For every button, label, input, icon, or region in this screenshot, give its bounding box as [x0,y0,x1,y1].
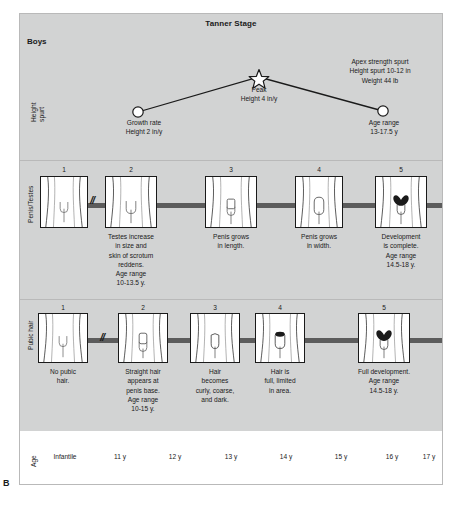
pubic-stage-figure-5 [359,314,409,362]
pubic-stage-number-5: 5 [358,304,410,311]
age-range-label: Age range 13-17.5 y [338,118,430,137]
penis-stage-figure-4 [296,177,342,227]
penis-stage-number-2: 2 [105,166,157,173]
penis-cap2-l1: Testes increase [97,232,165,241]
age-tick-0: Infantile [38,453,92,460]
pubic-cap2-l5: 10-15 y. [109,404,177,413]
penis-cap5-l4: 14.5-18 y. [367,260,435,269]
penis-stage-number-3: 3 [205,166,257,173]
separator-2 [20,299,442,300]
penis-row-break-mark: // [90,194,94,206]
pubic-stage-figure-1 [39,314,87,362]
pubic-stage-number-1: 1 [38,304,88,311]
penis-cap5-l1: Development [367,232,435,241]
penis-stage-number-1: 1 [40,166,88,173]
pubic-cap3-l3: curly, coarse, [181,386,249,395]
pubic-cap4-l1: Hair is [246,367,314,376]
penis-cap2-l4: reddens. [97,260,165,269]
pubic-stage-number-3: 3 [190,304,240,311]
penis-cap4-l1: Penis grows [285,232,353,241]
row-label-penis-testes: Penis/Testes [27,186,34,223]
pubic-stage-caption-1: No pubic hair. [29,367,97,386]
age-tick-1: 11 y [100,453,140,460]
penis-stage-figure-2 [106,177,156,227]
penis-stage-panel-2 [105,176,157,228]
separator-1 [20,160,442,161]
growth-rate-line2: Height 2 in/y [98,127,190,136]
pubic-stage-caption-5: Full development. Age range 14.5-18 y. [342,367,426,395]
pubic-stage-figure-4 [256,314,304,362]
penis-stage-panel-1 [40,176,88,228]
row-label-pubic-hair: Pubic hair [27,321,34,350]
penis-stage-panel-3 [205,176,257,228]
penis-stage-figure-1 [41,177,87,227]
penis-cap2-l3: skin of scrotum [97,251,165,260]
pubic-stage-figure-3 [191,314,239,362]
penis-stage-caption-5: Development is complete. Age range 14.5-… [367,232,435,269]
pubic-cap2-l1: Straight hair [109,367,177,376]
penis-cap2-l2: in size and [97,241,165,250]
apex-strength-note: Apex strength spurt Height spurt 10-12 i… [318,57,442,85]
pubic-stage-caption-4: Hair is full, limited in area. [246,367,314,395]
age-tick-5: 15 y [321,453,361,460]
pubic-cap1-l1: No pubic [29,367,97,376]
age-tick-7: 17 y [412,453,446,460]
figure-panel-letter: B [3,478,10,488]
penis-cap5-l2: is complete. [367,241,435,250]
row-label-age: Age [30,455,37,467]
penis-cap5-l3: Age range [367,251,435,260]
pubic-stage-number-2: 2 [118,304,168,311]
pubic-stage-panel-5 [358,313,410,363]
apex-note-line2: Height spurt 10-12 in [318,66,442,75]
growth-rate-label: Growth rate Height 2 in/y [98,118,190,137]
pubic-cap4-l2: full, limited [246,376,314,385]
pubic-cap5-l3: 14.5-18 y. [342,386,426,395]
pubic-cap2-l2: appears at [109,376,177,385]
growth-rate-line1: Growth rate [98,118,190,127]
pubic-stage-figure-2 [119,314,167,362]
age-tick-6: 16 y [372,453,412,460]
penis-stage-caption-2: Testes increase in size and skin of scro… [97,232,165,288]
penis-stage-number-4: 4 [295,166,343,173]
pubic-cap4-l3: in area. [246,386,314,395]
penis-cap2-l5: Age range [97,269,165,278]
penis-stage-caption-3: Penis grows in length. [197,232,265,251]
age-tick-2: 12 y [155,453,195,460]
pubic-cap3-l4: and dark. [181,395,249,404]
apex-note-line1: Apex strength spurt [318,57,442,66]
pubic-cap2-l3: penis base. [109,386,177,395]
pubic-stage-panel-1 [38,313,88,363]
pubic-cap5-l2: Age range [342,376,426,385]
pubic-stage-panel-2 [118,313,168,363]
pubic-stage-caption-3: Hair becomes curly, coarse, and dark. [181,367,249,404]
peak-label: Peak Height 4 in/y [213,85,305,104]
pubic-row-break-mark: // [100,331,104,343]
penis-cap4-l2: in width. [285,241,353,250]
apex-note-line3: Weight 44 lb [318,76,442,85]
pubic-stage-panel-4 [255,313,305,363]
pubic-cap5-l1: Full development. [342,367,426,376]
penis-stage-figure-5 [376,177,426,227]
age-tick-3: 13 y [211,453,251,460]
pubic-cap3-l1: Hair [181,367,249,376]
penis-stage-panel-4 [295,176,343,228]
peak-line2: Height 4 in/y [213,94,305,103]
peak-line1: Peak [213,85,305,94]
age-range-line2: 13-17.5 y [338,127,430,136]
pubic-stage-panel-3 [190,313,240,363]
pubic-cap1-l2: hair. [29,376,97,385]
age-range-line1: Age range [338,118,430,127]
penis-cap2-l6: 10-13.5 y. [97,278,165,287]
sex-label: Boys [27,37,47,46]
pubic-stage-number-4: 4 [255,304,305,311]
penis-cap3-l1: Penis grows [197,232,265,241]
penis-cap3-l2: in length. [197,241,265,250]
penis-stage-figure-3 [206,177,256,227]
penis-stage-caption-4: Penis grows in width. [285,232,353,251]
pubic-stage-caption-2: Straight hair appears at penis base. Age… [109,367,177,413]
pubic-cap2-l4: Age range [109,395,177,404]
penis-stage-panel-5 [375,176,427,228]
page-title: Tanner Stage [0,19,462,28]
penis-stage-number-5: 5 [375,166,427,173]
age-tick-4: 14 y [266,453,306,460]
